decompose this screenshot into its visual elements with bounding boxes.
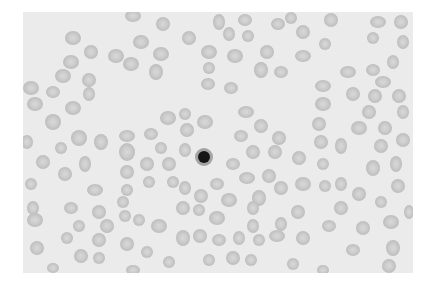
blood-smear-micrograph: Grayscale light micrograph of red blood … [23,12,413,273]
red-blood-cells [23,12,413,273]
nucleated-cell [195,148,213,166]
cells-layer [23,12,413,273]
